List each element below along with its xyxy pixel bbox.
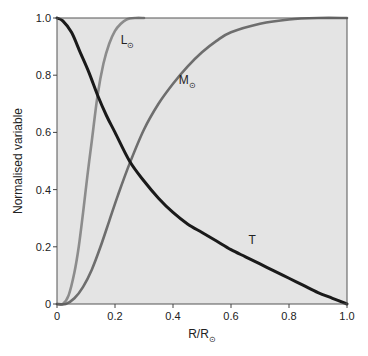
x-axis-title: R/R⊙ [188, 327, 216, 344]
temperature-label: T [248, 233, 256, 247]
y-tick-label: 0 [45, 298, 51, 310]
x-tick-label: 0.2 [107, 310, 122, 322]
y-axis-title: Normalised variable [11, 108, 25, 214]
y-tick-label: 1.0 [36, 12, 51, 24]
y-tick-label: 0.6 [36, 126, 51, 138]
plot-background [57, 18, 347, 304]
line-chart: 00.20.40.60.81.000.20.40.60.81.0 L⊙M⊙T R… [0, 0, 368, 356]
x-tick-label: 0.4 [165, 310, 180, 322]
x-tick-label: 0 [54, 310, 60, 322]
x-tick-label: 0.6 [223, 310, 238, 322]
x-tick-label: 0.8 [281, 310, 296, 322]
x-tick-label: 1.0 [339, 310, 354, 322]
y-tick-label: 0.8 [36, 69, 51, 81]
y-tick-label: 0.4 [36, 184, 51, 196]
y-tick-label: 0.2 [36, 241, 51, 253]
